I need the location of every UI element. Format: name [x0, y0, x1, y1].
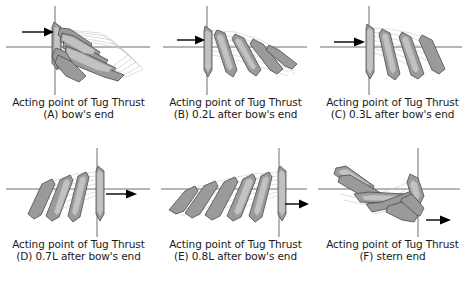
panel-b-diagram: [157, 0, 314, 100]
hull-sequence-b: [204, 26, 297, 77]
panel-b-caption-line1: Acting point of Tug Thrust: [157, 96, 314, 109]
panel-e-caption-line2: (E) 0.8L after bow's end: [157, 250, 314, 263]
panel-e: Acting point of Tug Thrust (E) 0.8L afte…: [157, 142, 314, 284]
tug-thrust-arrow: [106, 190, 137, 199]
axes-f: [318, 148, 460, 237]
panel-f-caption-line1: Acting point of Tug Thrust: [314, 238, 471, 251]
hull-sequence-d: [28, 166, 104, 222]
panel-e-caption-line1: Acting point of Tug Thrust: [157, 238, 314, 251]
panel-a-caption-line1: Acting point of Tug Thrust: [0, 96, 157, 109]
panel-b: Acting point of Tug Thrust (B) 0.2L afte…: [157, 0, 314, 142]
panel-f: Acting point of Tug Thrust (F) stern end: [314, 142, 471, 284]
panel-c: Acting point of Tug Thrust (C) 0.3L afte…: [314, 0, 471, 142]
tug-thrust-arrow: [285, 200, 309, 209]
tug-thrust-arrow: [22, 28, 54, 37]
panel-f-caption-line2: (F) stern end: [314, 250, 471, 263]
panel-d: Acting point of Tug Thrust (D) 0.7L afte…: [0, 142, 157, 284]
panel-e-diagram: [157, 142, 314, 242]
tug-thrust-figure: Acting point of Tug Thrust (A) bow's end: [0, 0, 472, 284]
tug-thrust-arrow: [334, 38, 365, 47]
panel-c-diagram: [314, 0, 471, 100]
hull-sequence-a: [52, 22, 124, 82]
panel-a-diagram: [0, 0, 157, 100]
tug-thrust-arrow: [177, 36, 205, 45]
panel-d-diagram: [0, 142, 157, 242]
panel-f-diagram: [314, 142, 471, 242]
panel-c-caption-line1: Acting point of Tug Thrust: [314, 96, 471, 109]
panel-a: Acting point of Tug Thrust (A) bow's end: [0, 0, 157, 142]
panel-d-caption-line2: (D) 0.7L after bow's end: [0, 250, 157, 263]
panel-d-caption-line1: Acting point of Tug Thrust: [0, 238, 157, 251]
hull-sequence-e: [169, 166, 286, 222]
panel-b-caption-line2: (B) 0.2L after bow's end: [157, 108, 314, 121]
panel-c-caption-line2: (C) 0.3L after bow's end: [314, 108, 471, 121]
tug-thrust-arrow: [426, 216, 451, 225]
hull-sequence-f: [334, 166, 424, 222]
panel-a-caption-line2: (A) bow's end: [0, 108, 157, 121]
